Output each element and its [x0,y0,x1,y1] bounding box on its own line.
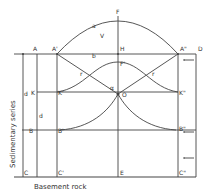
sedimentary-series-label: Sedimentary series [9,100,17,168]
basement-rock-label: Basement rock [34,183,87,191]
diagram-canvas: A A' A" D F F' H K K' K" B B' B" C C' C"… [0,0,211,191]
label-f1: F' [120,60,125,67]
label-k1: K' [58,89,64,96]
label-d: D [198,45,203,52]
point-o-dot [117,93,120,96]
point-dot [22,53,24,55]
label-b1: B' [58,127,64,134]
arrow-head [183,157,185,159]
label-a2: A" [180,45,187,52]
label-seg-d2: d [24,90,28,97]
lower-curve-right [118,94,176,130]
label-seg-d: d [39,112,43,119]
label-seg-a: a [92,22,96,29]
label-b: B [29,127,33,134]
point-dot [117,53,119,55]
label-b2: B" [179,125,186,132]
label-c1: C' [58,169,64,176]
label-a1: A' [52,45,58,52]
label-e: E [120,169,124,176]
lower-curve-left [60,94,118,130]
radius-left [57,54,118,94]
label-a: A [33,45,38,52]
label-h: H [120,45,125,52]
label-seg-v: V [100,32,105,39]
radius-right [118,54,178,94]
label-f: F [116,8,120,15]
point-dot [56,53,58,55]
label-k: K [31,89,36,96]
label-k2: K" [179,89,186,96]
arc-a [57,21,178,54]
label-o: O [122,91,127,98]
point-dot [177,53,179,55]
label-seg-r-right: r [152,70,155,77]
label-c: C [24,169,28,176]
label-alpha: α [110,84,114,91]
arrow-head [183,59,185,61]
label-c2: C" [179,169,186,176]
label-seg-b: b [92,52,96,59]
